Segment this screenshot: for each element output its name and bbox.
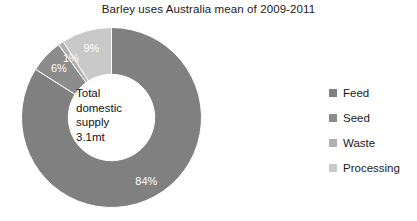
donut-center-label: Total domestic supply 3.1mt <box>76 86 158 144</box>
legend-swatch-processing-icon <box>329 164 337 172</box>
slice-value-waste: 1% <box>63 52 79 64</box>
chart-legend: Feed Seed Waste Processing <box>329 80 417 180</box>
center-label-line-2: domestic <box>76 101 158 116</box>
legend-swatch-seed-icon <box>329 114 337 122</box>
legend-item-feed[interactable]: Feed <box>329 80 417 105</box>
legend-swatch-feed-icon <box>329 89 337 97</box>
slice-value-seed: 6% <box>51 62 67 74</box>
center-label-line-1: Total <box>76 86 158 101</box>
center-label-line-4: 3.1mt <box>76 130 158 145</box>
chart-figure: Barley uses Australia mean of 2009-2011 … <box>0 0 417 221</box>
legend-label-processing: Processing <box>343 162 400 174</box>
slice-value-feed: 84% <box>135 175 157 187</box>
chart-title: Barley uses Australia mean of 2009-2011 <box>0 3 417 15</box>
legend-item-seed[interactable]: Seed <box>329 105 417 130</box>
legend-swatch-waste-icon <box>329 139 337 147</box>
slice-value-processing: 9% <box>83 42 99 54</box>
legend-item-processing[interactable]: Processing <box>329 155 417 180</box>
legend-label-seed: Seed <box>343 112 370 124</box>
center-label-line-3: supply <box>76 115 158 130</box>
legend-label-feed: Feed <box>343 87 369 99</box>
legend-item-waste[interactable]: Waste <box>329 130 417 155</box>
legend-label-waste: Waste <box>343 137 375 149</box>
